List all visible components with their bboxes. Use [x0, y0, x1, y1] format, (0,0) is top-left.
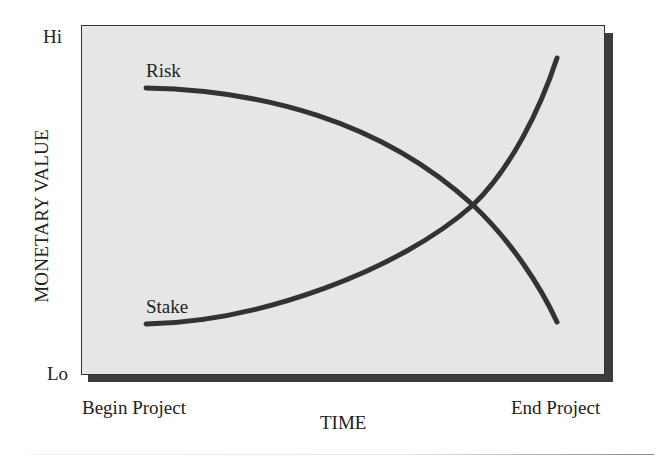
x-tick-begin: Begin Project: [82, 397, 186, 419]
y-axis-title: MONETARY VALUE: [31, 116, 53, 316]
curves-layer: [0, 0, 659, 458]
risk-curve: [146, 88, 557, 322]
y-tick-hi: Hi: [43, 27, 62, 46]
x-axis-title: TIME: [320, 412, 366, 434]
stake-curve: [146, 58, 557, 324]
x-tick-end: End Project: [511, 397, 600, 419]
stake-label: Stake: [146, 296, 188, 318]
risk-label: Risk: [146, 60, 181, 82]
y-tick-lo: Lo: [47, 364, 68, 383]
bottom-rule: [30, 454, 654, 455]
